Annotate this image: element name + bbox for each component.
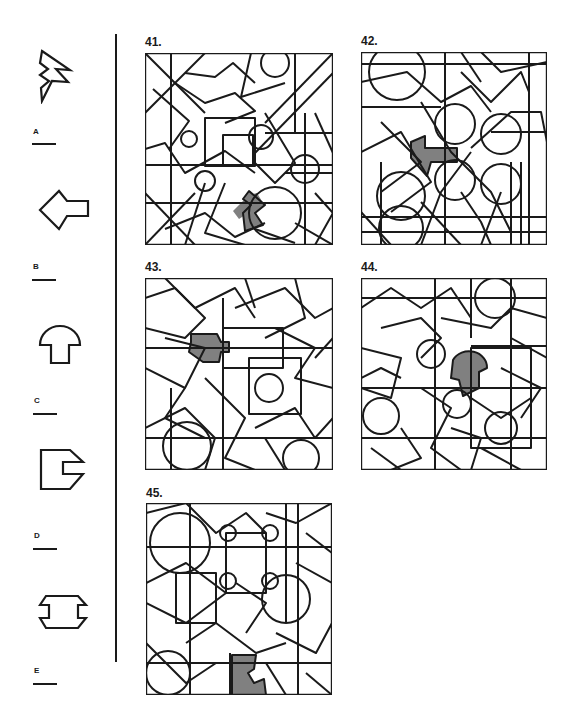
option-e-spool-icon (38, 593, 90, 633)
question-42-number: 42. (361, 34, 378, 48)
question-43-number: 43. (145, 260, 162, 274)
option-b-label: B (33, 262, 39, 271)
question-41-figure (145, 53, 333, 245)
question-44-figure (361, 278, 547, 470)
question-41-number: 41. (145, 35, 162, 49)
column-divider (115, 34, 117, 662)
question-45-number: 45. (146, 486, 163, 500)
option-c-answer-line[interactable] (33, 413, 57, 415)
option-b-diamond-stem-icon (38, 188, 92, 232)
question-44-number: 44. (361, 260, 378, 274)
option-b-answer-line[interactable] (32, 279, 56, 281)
option-a-label: A (33, 127, 39, 136)
option-a-answer-line[interactable] (32, 143, 56, 145)
option-e-answer-line[interactable] (33, 683, 57, 685)
option-e-label: E (34, 666, 39, 675)
option-a-zigzag-icon (36, 48, 76, 104)
option-c-label: C (34, 396, 40, 405)
option-d-label: D (34, 531, 40, 540)
option-d-answer-line[interactable] (33, 548, 57, 550)
option-c-mushroom-icon (38, 323, 82, 367)
question-43-figure (145, 278, 333, 470)
option-d-notched-pentagon-icon (38, 447, 86, 493)
question-42-figure (361, 52, 547, 245)
question-45-figure (146, 503, 332, 695)
